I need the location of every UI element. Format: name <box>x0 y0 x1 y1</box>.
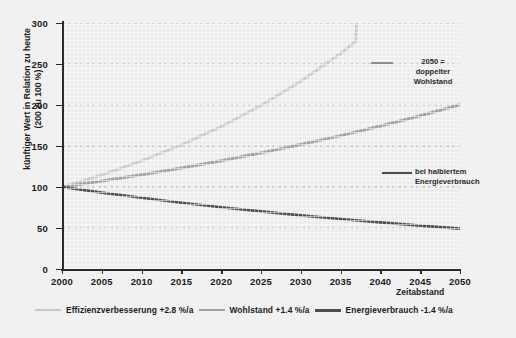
x-tick-2020 <box>221 269 222 274</box>
x-tick-label-2030: 2030 <box>281 276 321 287</box>
annotation-doppelter-wohlstand: 2050 = doppelter Wohlstand <box>398 57 468 87</box>
x-tick-2045 <box>420 269 421 274</box>
y-tick-200 <box>56 105 62 106</box>
x-tick-2000 <box>62 269 63 274</box>
x-tick-2050 <box>460 269 461 274</box>
annotation-energie-line2: Energieverbrauch <box>415 177 493 187</box>
annotation-leader-line-icon <box>382 172 412 174</box>
legend-label-effizienzverbesserung: Effizienzverbesserung +2.8 %/a <box>66 305 194 315</box>
x-tick-label-2025: 2025 <box>241 276 281 287</box>
y-tick-label-0: 0 <box>14 264 48 275</box>
x-tick-label-2040: 2040 <box>360 276 400 287</box>
x-tick-label-2010: 2010 <box>122 276 162 287</box>
annotation-halbierter-energieverbrauch: bei halbiertem Energieverbrauch <box>415 167 493 187</box>
legend-label-energieverbrauch: Energieverbrauch -1.4 %/a <box>346 305 453 315</box>
legend-item-energieverbrauch[interactable]: Energieverbrauch -1.4 %/a <box>310 305 453 315</box>
x-axis-title: Zeitabstand <box>396 287 444 297</box>
x-tick-2015 <box>181 269 182 274</box>
legend-item-effizienzverbesserung[interactable]: Effizienzverbesserung +2.8 %/a <box>30 305 194 315</box>
legend-swatch-wohlstand-icon <box>199 309 225 311</box>
chart-legend: Effizienzverbesserung +2.8 %/a Wohlstand… <box>30 305 470 315</box>
annotation-energie-line1: bei halbiertem <box>415 167 493 177</box>
legend-swatch-effizienzverbesserung-icon <box>35 309 61 311</box>
series-line-energieverbrauch <box>62 187 460 229</box>
legend-swatch-energieverbrauch-icon <box>315 309 341 312</box>
y-axis-title-line1: künftiger Wert in Relation zu heute <box>22 4 33 194</box>
chart-figure: 300 250 200 150 100 50 0 2000 2005 2010 … <box>0 0 516 338</box>
y-axis-title: künftiger Wert in Relation zu heute (200… <box>22 4 44 194</box>
legend-item-wohlstand[interactable]: Wohlstand +1.4 %/a <box>194 305 310 315</box>
y-tick-250 <box>56 64 62 65</box>
y-tick-label-50: 50 <box>14 223 48 234</box>
annotation-leader-line-icon <box>371 62 393 64</box>
y-tick-100 <box>56 187 62 188</box>
x-tick-2040 <box>380 269 381 274</box>
y-tick-150 <box>56 146 62 147</box>
gridlines-horizontal <box>62 23 460 228</box>
x-tick-label-2015: 2015 <box>161 276 201 287</box>
legend-label-wohlstand: Wohlstand +1.4 %/a <box>230 305 310 315</box>
y-tick-300 <box>56 23 62 24</box>
x-tick-label-2035: 2035 <box>321 276 361 287</box>
x-tick-label-2050: 2050 <box>440 276 480 287</box>
y-tick-50 <box>56 228 62 229</box>
x-tick-label-2000: 2000 <box>42 276 82 287</box>
x-tick-2035 <box>341 269 342 274</box>
x-tick-label-2045: 2045 <box>400 276 440 287</box>
x-tick-2010 <box>142 269 143 274</box>
x-tick-2030 <box>301 269 302 274</box>
x-tick-label-2005: 2005 <box>82 276 122 287</box>
x-tick-label-2020: 2020 <box>201 276 241 287</box>
annotation-wohlstand-line3: Wohlstand <box>398 77 468 87</box>
x-tick-2025 <box>261 269 262 274</box>
y-axis-title-line2: (200 zu 100 %) <box>33 4 44 194</box>
x-tick-2005 <box>102 269 103 274</box>
y-axis-line <box>62 21 64 271</box>
annotation-wohlstand-line2: doppelter <box>398 67 468 77</box>
annotation-wohlstand-line1: 2050 = <box>398 57 468 67</box>
